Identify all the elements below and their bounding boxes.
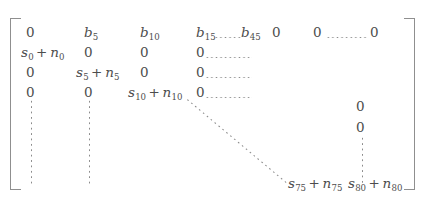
cell-r3c3: 0: [140, 66, 149, 80]
cell-r3c2-n-sub: 5: [114, 72, 119, 82]
cell-r1c3-base: b: [140, 24, 149, 40]
cell-r1c2-sub: 5: [93, 32, 98, 42]
cell-r1c4: b15: [196, 26, 216, 40]
dot-leader-r1-a: [214, 34, 241, 38]
cell-r2c1-plus: +: [34, 44, 51, 60]
cell-r2c1: s0+n0: [21, 46, 65, 60]
cell-r2c1-s-sub: 0: [28, 52, 33, 62]
cell-r4c4: 0: [196, 86, 205, 100]
diagonal-ellipsis: [185, 97, 288, 184]
cell-r2c4: 0: [196, 46, 205, 60]
cell-r3c2: s5+n5: [76, 66, 120, 80]
cell-last-c8-n: n: [383, 175, 392, 191]
cell-r1c5-base: b: [241, 24, 250, 40]
cell-r1c3: b10: [140, 26, 160, 40]
cell-r1c4-base: b: [196, 24, 205, 40]
cell-rc-zero-2: 0: [356, 121, 365, 135]
dot-leader-r3: [205, 74, 252, 78]
cell-r3c2-n: n: [105, 64, 114, 80]
cell-r4c3-plus: +: [146, 84, 163, 100]
cell-r1c6: 0: [272, 26, 281, 40]
cell-r4c3: s10+n10: [128, 86, 182, 100]
cell-r1c2-base: b: [84, 24, 93, 40]
cell-r4c2: 0: [84, 86, 93, 100]
cell-r2c2: 0: [84, 46, 93, 60]
vertical-ellipsis-col2: [86, 99, 90, 187]
cell-r1c1: 0: [26, 26, 35, 40]
cell-r3c1: 0: [26, 66, 35, 80]
cell-last-c7-n: n: [323, 175, 332, 191]
dot-leader-r4: [205, 94, 252, 98]
vertical-ellipsis-col1: [28, 99, 32, 187]
dot-leader-r2: [205, 54, 252, 58]
cell-r3c2-plus: +: [89, 64, 106, 80]
cell-r4c3-n: n: [163, 84, 172, 100]
cell-last-c8: s80+n80: [348, 177, 402, 191]
cell-r2c1-n-sub: 0: [59, 52, 64, 62]
right-bracket: [404, 18, 415, 190]
matrix-figure: 0 b5 b10 b15 b45 0 0 0 s0+n0 0 0 0 0 s5+…: [0, 0, 433, 202]
dot-leader-r1-b: [326, 34, 367, 38]
cell-r4c1: 0: [26, 86, 35, 100]
cell-last-c8-n-sub: 80: [392, 183, 403, 193]
left-bracket: [10, 18, 21, 190]
cell-r1c5: b45: [241, 26, 261, 40]
cell-r1c7: 0: [313, 26, 322, 40]
cell-r3c2-s-sub: 5: [83, 72, 88, 82]
cell-r1c8: 0: [370, 26, 379, 40]
cell-last-c7: s75+n75: [288, 177, 342, 191]
cell-last-c8-s-sub: 80: [355, 183, 366, 193]
cell-r2c1-n: n: [50, 44, 59, 60]
cell-last-c7-plus: +: [306, 175, 323, 191]
cell-r1c2: b5: [84, 26, 98, 40]
cell-last-c7-n-sub: 75: [332, 183, 343, 193]
cell-r3c4: 0: [196, 66, 205, 80]
cell-r2c3: 0: [140, 46, 149, 60]
cell-r1c5-sub: 45: [250, 32, 261, 42]
cell-r1c3-sub: 10: [149, 32, 160, 42]
cell-last-c8-plus: +: [366, 175, 383, 191]
cell-last-c7-s-sub: 75: [295, 183, 306, 193]
cell-r4c3-n-sub: 10: [172, 92, 183, 102]
cell-r4c3-s-sub: 10: [135, 92, 146, 102]
cell-rc-zero-1: 0: [356, 100, 365, 114]
